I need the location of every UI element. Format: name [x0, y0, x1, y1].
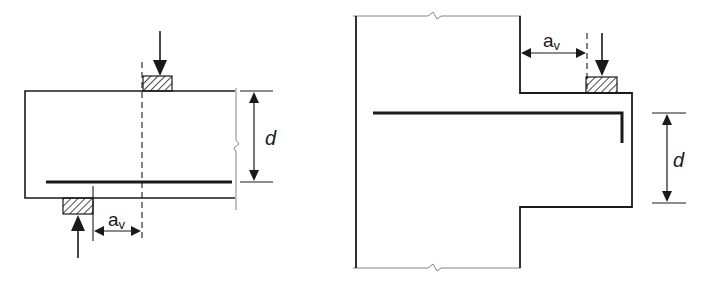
corbel-bearing-pad	[586, 77, 617, 93]
diagram-canvas: av d	[0, 0, 701, 281]
d-label-left: d	[265, 127, 277, 149]
bottom-support-pad	[63, 198, 93, 214]
av-label-right: av	[543, 30, 561, 53]
corbel-figure: av d	[353, 12, 686, 271]
column-bottom-break-line	[353, 264, 521, 271]
corbel-rebar	[373, 113, 622, 143]
top-bearing-pad	[143, 76, 172, 91]
reaction-arrow-icon	[71, 215, 85, 258]
column-top-break-line	[353, 12, 521, 19]
beam-break-line	[234, 88, 239, 210]
d-label-right: d	[673, 149, 685, 171]
beam-figure: av d	[25, 31, 277, 258]
top-load-arrow-icon	[153, 31, 167, 76]
av-label-left: av	[108, 209, 126, 232]
corbel-load-arrow-icon	[595, 33, 609, 76]
